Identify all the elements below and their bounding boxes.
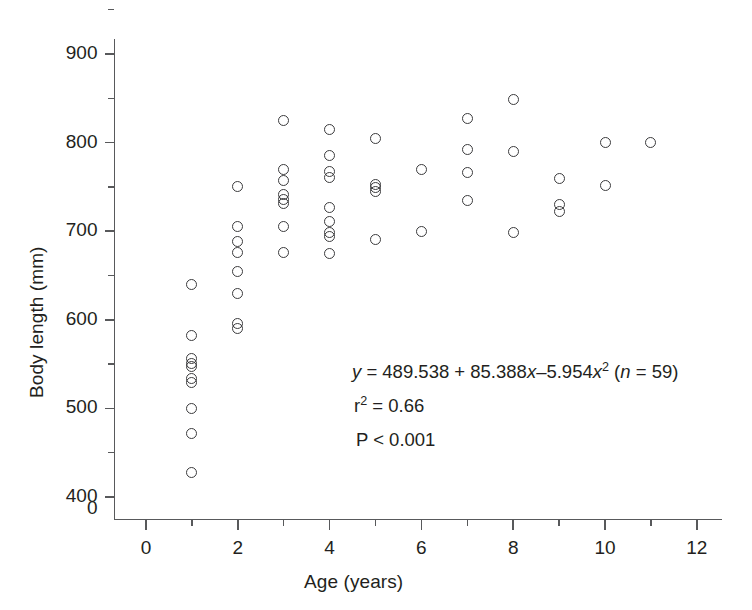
equation-line: y = 489.538 + 85.388x–5.954x2 (n = 59): [352, 355, 678, 389]
equation-exponent: 2: [602, 360, 609, 374]
data-point: [508, 227, 519, 238]
data-point: [232, 221, 243, 232]
scatter-plot-figure: Body length (mm) Age (years) 40050060070…: [0, 0, 752, 610]
data-point: [186, 330, 197, 341]
data-point: [370, 186, 381, 197]
data-point: [600, 137, 611, 148]
data-point: [186, 403, 197, 414]
data-point: [508, 94, 519, 105]
data-point: [324, 124, 335, 135]
data-point: [278, 115, 289, 126]
equation-middle: –5.954: [536, 361, 593, 382]
data-point: [554, 206, 565, 217]
data-point: [600, 180, 611, 191]
data-point: [324, 172, 335, 183]
data-point: [278, 198, 289, 209]
data-point: [324, 248, 335, 259]
data-point: [186, 361, 197, 372]
data-point: [462, 195, 473, 206]
data-point: [554, 173, 565, 184]
equation-x-term-2: x: [593, 361, 602, 382]
data-point: [462, 113, 473, 124]
data-point: [508, 146, 519, 157]
equation-n-value: = 59): [631, 361, 679, 382]
data-point: [462, 167, 473, 178]
data-point: [186, 428, 197, 439]
data-point: [324, 202, 335, 213]
data-point: [232, 181, 243, 192]
equation-n-open: (: [609, 361, 620, 382]
data-point: [186, 377, 197, 388]
data-point: [186, 279, 197, 290]
equation-y-var: y: [352, 361, 361, 382]
data-point: [278, 221, 289, 232]
r-squared-value: = 0.66: [367, 395, 424, 416]
data-point: [278, 175, 289, 186]
data-point: [186, 467, 197, 478]
data-point: [416, 164, 427, 175]
data-point: [370, 234, 381, 245]
data-point: [278, 164, 289, 175]
p-value-line: P < 0.001: [352, 423, 678, 457]
equation-body: = 489.538 + 85.388: [361, 361, 527, 382]
data-point: [278, 247, 289, 258]
equation-x-term-1: x: [527, 361, 536, 382]
data-points-layer: [0, 0, 752, 610]
data-point: [232, 247, 243, 258]
equation-n-var: n: [620, 361, 630, 382]
data-point: [232, 323, 243, 334]
data-point: [232, 236, 243, 247]
data-point: [462, 144, 473, 155]
data-point: [324, 150, 335, 161]
data-point: [232, 288, 243, 299]
data-point: [370, 133, 381, 144]
data-point: [324, 231, 335, 242]
r-squared-line: r2 = 0.66: [352, 389, 678, 423]
data-point: [232, 266, 243, 277]
data-point: [324, 216, 335, 227]
regression-annotation: y = 489.538 + 85.388x–5.954x2 (n = 59) r…: [352, 355, 678, 457]
data-point: [416, 226, 427, 237]
data-point: [645, 137, 656, 148]
